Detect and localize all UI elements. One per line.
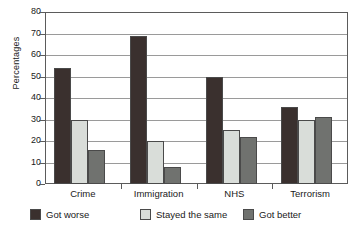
y-tick-label: 50 bbox=[11, 72, 41, 81]
bar bbox=[206, 77, 223, 185]
legend-label: Got better bbox=[259, 209, 301, 220]
bar bbox=[315, 117, 332, 184]
y-tick-label: 70 bbox=[11, 29, 41, 38]
x-category-label-nhs: NHS bbox=[197, 188, 273, 199]
legend-label: Stayed the same bbox=[156, 209, 227, 220]
y-tick-label: 30 bbox=[11, 115, 41, 124]
legend-swatch-icon bbox=[140, 209, 151, 220]
legend-item: Got better bbox=[243, 209, 301, 220]
bar bbox=[164, 167, 181, 184]
bar bbox=[88, 150, 105, 184]
bar bbox=[54, 68, 71, 184]
bar bbox=[298, 120, 315, 185]
bars-layer bbox=[45, 12, 348, 184]
legend-swatch-icon bbox=[30, 209, 41, 220]
x-category-label-terrorism: Terrorism bbox=[272, 188, 348, 199]
y-tick-label: 80 bbox=[11, 7, 41, 16]
y-tick-label: 40 bbox=[11, 93, 41, 102]
y-tick-label: 60 bbox=[11, 50, 41, 59]
y-tick-label: 0 bbox=[11, 179, 41, 188]
y-tick-mark bbox=[39, 184, 45, 185]
x-category-label-crime: Crime bbox=[45, 188, 121, 199]
bar bbox=[223, 130, 240, 184]
x-category-label-immigration: Immigration bbox=[121, 188, 197, 199]
y-tick-label: 20 bbox=[11, 136, 41, 145]
legend-item: Got worse bbox=[30, 209, 89, 220]
bar bbox=[71, 120, 88, 185]
bar bbox=[281, 107, 298, 184]
bar bbox=[147, 141, 164, 184]
y-axis-title: Percentages bbox=[11, 3, 21, 123]
bar-chart: Percentages 80706050403020100 CrimeImmig… bbox=[0, 0, 359, 237]
legend-item: Stayed the same bbox=[140, 209, 227, 220]
bar bbox=[240, 137, 257, 184]
chart-legend: Got worseStayed the sameGot better bbox=[0, 209, 359, 229]
legend-label: Got worse bbox=[46, 209, 89, 220]
y-tick-label: 10 bbox=[11, 158, 41, 167]
legend-swatch-icon bbox=[243, 209, 254, 220]
bar bbox=[130, 36, 147, 184]
